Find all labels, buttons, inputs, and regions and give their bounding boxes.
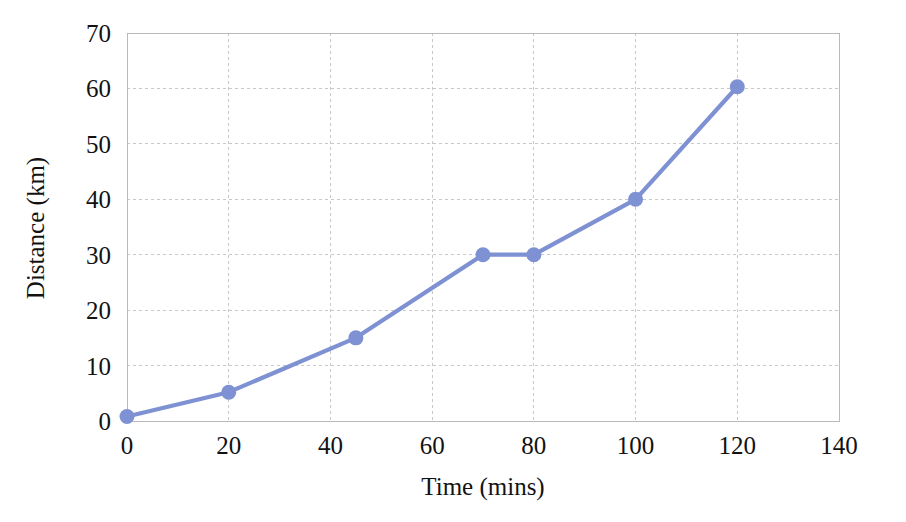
y-tick-label: 30 — [86, 242, 111, 269]
data-point-marker — [730, 79, 745, 94]
data-point-marker — [628, 192, 643, 207]
data-point-marker — [120, 409, 135, 424]
x-tick-label: 80 — [521, 432, 546, 459]
y-axis-title: Distance (km) — [22, 157, 50, 299]
x-tick-label: 100 — [617, 432, 655, 459]
x-tick-label: 60 — [420, 432, 445, 459]
y-tick-label: 60 — [86, 75, 111, 102]
y-tick-label: 20 — [86, 297, 111, 324]
chart-container: 010203040506070 020406080100120140 Time … — [0, 0, 906, 522]
x-tick-label: 120 — [719, 432, 757, 459]
data-point-marker — [221, 385, 236, 400]
x-tick-label: 20 — [216, 432, 241, 459]
y-tick-label: 10 — [86, 353, 111, 380]
x-tick-label: 0 — [121, 432, 134, 459]
y-tick-label: 0 — [99, 408, 112, 435]
x-tick-label: 40 — [318, 432, 343, 459]
line-chart: 010203040506070 020406080100120140 Time … — [0, 0, 906, 522]
data-point-marker — [348, 330, 363, 345]
chart-background — [0, 0, 906, 522]
x-axis-title: Time (mins) — [421, 473, 544, 501]
data-point-marker — [476, 247, 491, 262]
y-tick-label: 40 — [86, 186, 111, 213]
x-tick-label: 140 — [820, 432, 858, 459]
data-point-marker — [526, 247, 541, 262]
y-tick-label: 50 — [86, 131, 111, 158]
y-tick-label: 70 — [86, 20, 111, 47]
